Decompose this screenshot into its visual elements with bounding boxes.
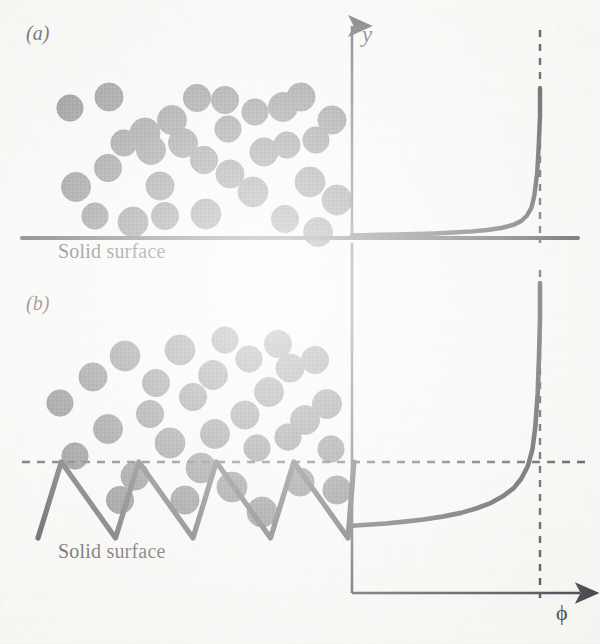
- particle: [276, 354, 304, 382]
- particle: [191, 199, 221, 229]
- particle: [211, 86, 238, 113]
- phi-axis-label: ϕ: [556, 600, 568, 626]
- particle: [231, 401, 259, 429]
- particle: [142, 369, 169, 396]
- particle: [244, 435, 270, 461]
- particle: [274, 132, 300, 158]
- particle: [94, 154, 121, 181]
- particle: [301, 346, 328, 373]
- particle: [93, 414, 122, 443]
- particle: [57, 95, 83, 121]
- particle: [323, 476, 351, 504]
- particle: [47, 390, 73, 416]
- particle: [322, 185, 352, 215]
- particle: [146, 172, 174, 200]
- particle: [183, 84, 210, 111]
- particle: [165, 335, 195, 365]
- particle: [79, 363, 107, 391]
- particle: [198, 360, 227, 389]
- particle: [242, 99, 268, 125]
- particle: [318, 436, 344, 462]
- y-axis-label: y: [362, 22, 372, 48]
- particle: [155, 428, 185, 458]
- particle: [238, 177, 268, 207]
- panel-label-b: (b): [26, 292, 49, 315]
- solid-surface-label-a: Solid surface: [58, 240, 166, 263]
- particle: [136, 400, 163, 427]
- particle: [215, 116, 241, 142]
- concentration-profile-curve-b: [352, 283, 540, 526]
- particle: [236, 346, 262, 372]
- particle: [295, 167, 325, 197]
- particle: [287, 83, 315, 111]
- panel-label-a: (a): [26, 22, 49, 45]
- particle: [271, 205, 298, 232]
- particle: [212, 327, 238, 353]
- particle: [136, 135, 165, 164]
- particle: [254, 377, 283, 406]
- particle: [110, 341, 140, 371]
- particle: [118, 207, 148, 237]
- figure-root: (a) Solid surface (b) Solid surface y ϕ: [0, 0, 600, 644]
- particle: [290, 405, 319, 434]
- concentration-profile-curve-a: [352, 88, 540, 235]
- particle: [151, 202, 178, 229]
- particle: [216, 160, 244, 188]
- particle: [303, 217, 332, 246]
- particle: [264, 330, 291, 357]
- particle: [157, 105, 186, 134]
- solid-surface-label-b: Solid surface: [58, 540, 166, 563]
- particle: [61, 172, 90, 201]
- panel-b-particles: [47, 327, 351, 527]
- particle: [95, 83, 123, 111]
- particle: [179, 383, 206, 410]
- panel-a-particles: [57, 83, 352, 247]
- particle: [318, 106, 346, 134]
- particle: [190, 146, 217, 173]
- particle: [111, 130, 137, 156]
- particle: [200, 419, 229, 448]
- particle: [82, 203, 108, 229]
